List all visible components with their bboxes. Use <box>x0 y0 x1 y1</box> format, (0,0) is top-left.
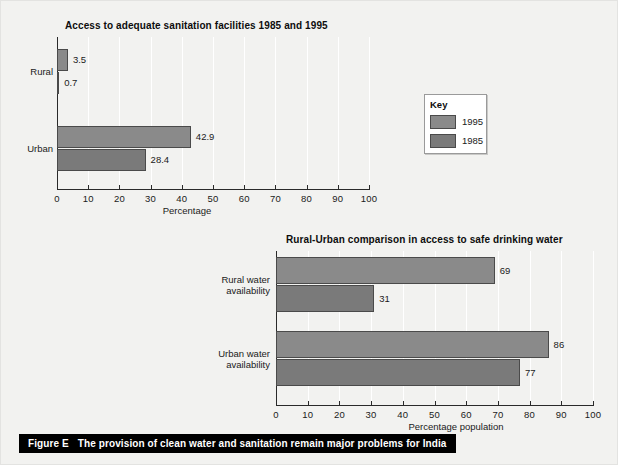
bar-value-label: 86 <box>554 339 565 350</box>
gridline <box>561 251 562 405</box>
x-tick <box>593 401 594 405</box>
x-tick-label: 60 <box>453 409 479 420</box>
x-tick <box>403 401 404 405</box>
x-tick <box>498 401 499 405</box>
figure-page: Access to adequate sanitation facilities… <box>0 0 618 465</box>
chart-drinking-water: Rural-Urban comparison in access to safe… <box>1 1 618 431</box>
x-tick-label: 100 <box>580 409 606 420</box>
x-tick-label: 80 <box>517 409 543 420</box>
x-tick-label: 10 <box>295 409 321 420</box>
x-tick <box>435 401 436 405</box>
bar-value-label: 69 <box>500 265 511 276</box>
bar-value-label: 77 <box>525 367 536 378</box>
category-label: Urban wateravailability <box>178 348 270 370</box>
figure-caption: Figure EThe provision of clean water and… <box>19 434 456 453</box>
gridline <box>593 251 594 405</box>
x-tick <box>561 401 562 405</box>
bar-drinking-water-0-1985 <box>276 285 374 312</box>
x-tick <box>530 401 531 405</box>
bar-drinking-water-1-1985 <box>276 359 520 386</box>
x-tick-label: 40 <box>390 409 416 420</box>
figure-caption-text: The provision of clean water and sanitat… <box>78 438 447 449</box>
chart-title-drinking-water: Rural-Urban comparison in access to safe… <box>286 234 563 245</box>
x-axis-line <box>276 405 594 406</box>
x-tick-label: 20 <box>326 409 352 420</box>
gridline <box>530 251 531 405</box>
x-tick-label: 70 <box>485 409 511 420</box>
x-tick-label: 0 <box>263 409 289 420</box>
x-tick-label: 90 <box>548 409 574 420</box>
x-tick <box>466 401 467 405</box>
x-tick <box>339 401 340 405</box>
x-tick <box>371 401 372 405</box>
category-label: Rural wateravailability <box>178 274 270 296</box>
x-tick-label: 30 <box>358 409 384 420</box>
bar-drinking-water-1-1995 <box>276 331 549 358</box>
bar-value-label: 31 <box>379 293 390 304</box>
x-tick-label: 50 <box>422 409 448 420</box>
x-axis-title-drinking-water: Percentage population <box>376 421 536 432</box>
x-tick <box>308 401 309 405</box>
bar-drinking-water-0-1995 <box>276 257 495 284</box>
figure-label: Figure E <box>28 438 69 449</box>
x-tick <box>276 401 277 405</box>
